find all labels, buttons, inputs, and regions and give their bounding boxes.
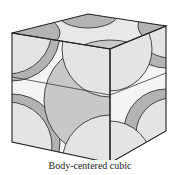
bcc-unit-cell-diagram [0, 0, 180, 160]
figure-caption: Body-centered cubic [0, 160, 180, 171]
